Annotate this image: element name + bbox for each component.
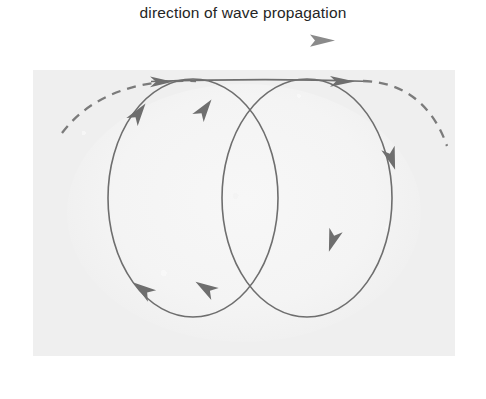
mid-orbit-bottom-arrowhead (192, 276, 219, 300)
right-orbit-lower-arrowhead (322, 228, 342, 254)
right-orbit-upper-arrowhead (192, 95, 217, 122)
diagram-panel (33, 70, 455, 356)
left-orbit-upper-arrowhead (126, 99, 151, 126)
right-particle-orbit (222, 79, 392, 317)
page-title: direction of wave propagation (0, 4, 486, 22)
wave-surface-profile-left (62, 81, 196, 133)
direction-of-propagation-arrow (150, 26, 350, 56)
orbital-motion-diagram (33, 70, 455, 356)
propagation-arrow-head (310, 34, 335, 46)
figure-root: direction of wave propagation (0, 0, 486, 399)
caption-block: direction of wave propagation (0, 0, 486, 62)
left-orbit-bottom-arrowhead (129, 277, 156, 302)
wave-surface-profile-right (363, 81, 447, 146)
